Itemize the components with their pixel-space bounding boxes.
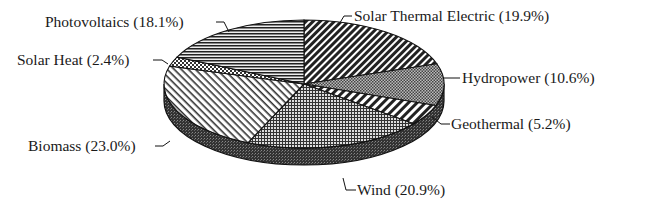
- pie-slices: [164, 20, 444, 148]
- label-solar-heat: Solar Heat (2.4%): [17, 51, 129, 69]
- label-solar-thermal-electric: Solar Thermal Electric (19.9%): [354, 7, 549, 25]
- label-hydropower: Hydropower (10.6%): [462, 69, 595, 87]
- label-biomass: Biomass (23.0%): [28, 137, 136, 155]
- pie-chart: [0, 0, 650, 207]
- label-geothermal: Geothermal (5.2%): [451, 115, 571, 133]
- label-wind: Wind (20.9%): [357, 181, 445, 199]
- label-photovoltaics: Photovoltaics (18.1%): [45, 13, 184, 31]
